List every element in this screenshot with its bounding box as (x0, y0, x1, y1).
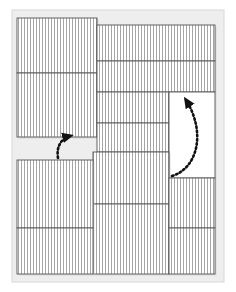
top-left-lower-panel (17, 73, 99, 139)
top-right-mid-panel (97, 61, 217, 94)
top-right-upper-panel (97, 25, 217, 63)
drawing-canvas (0, 0, 236, 292)
technical-drawing-figure (0, 0, 236, 292)
center-upper-panel (97, 92, 171, 125)
bottom-left-lower-panel (17, 228, 95, 276)
bottom-left-upper-panel (17, 160, 95, 230)
bottom-right-upper-panel (169, 178, 217, 230)
top-left-upper-panel (17, 18, 99, 75)
bottom-right-lower-panel (169, 228, 217, 276)
center-lower-panel (97, 123, 171, 154)
right-swing-panel (169, 92, 217, 180)
center-bottom-panel (93, 204, 171, 276)
center-mid-panel (93, 152, 171, 206)
